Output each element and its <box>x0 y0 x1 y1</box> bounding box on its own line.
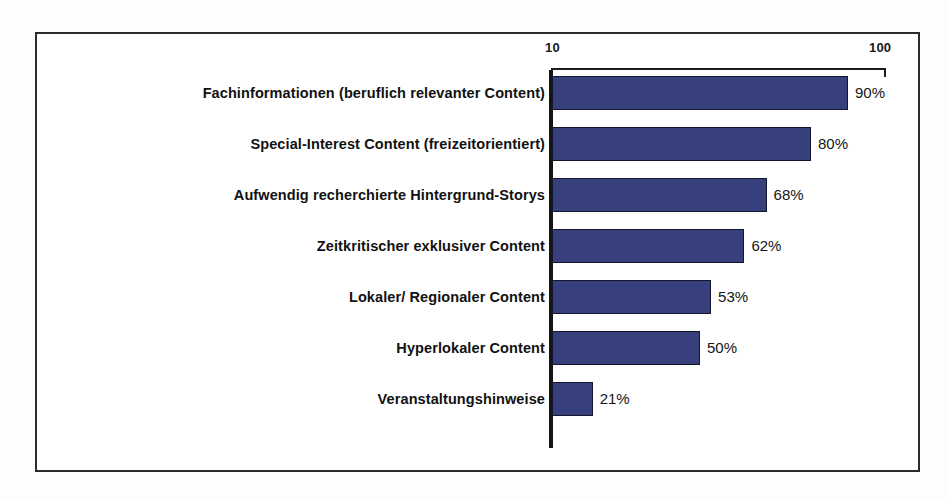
bar <box>552 382 593 416</box>
bar <box>552 229 744 263</box>
bar-value-label: 50% <box>707 331 737 365</box>
category-label: Hyperlokaler Content <box>396 331 545 365</box>
axis-tick-label-max: 100 <box>869 40 891 55</box>
bar-value-label: 62% <box>751 229 781 263</box>
bar <box>552 178 767 212</box>
category-label: Fachinformationen (beruflich relevanter … <box>203 76 545 110</box>
bar-value-label: 90% <box>855 76 885 110</box>
bar-chart: 10 100 Fachinformationen (beruflich rele… <box>0 0 949 501</box>
category-label: Zeitkritischer exklusiver Content <box>317 229 545 263</box>
bar-row: Fachinformationen (beruflich relevanter … <box>0 76 949 127</box>
category-label: Special-Interest Content (freizeitorient… <box>250 127 545 161</box>
bar-value-label: 21% <box>600 382 630 416</box>
bar-row: Hyperlokaler Content50% <box>0 331 949 382</box>
bar-row: Special-Interest Content (freizeitorient… <box>0 127 949 178</box>
axis-tick-label-min: 10 <box>545 40 560 55</box>
category-label: Lokaler/ Regionaler Content <box>349 280 545 314</box>
plot-area: 10 100 Fachinformationen (beruflich rele… <box>0 0 949 501</box>
bar-row: Aufwendig recherchierte Hintergrund-Stor… <box>0 178 949 229</box>
bar-row: Veranstaltungshinweise21% <box>0 382 949 433</box>
bar <box>552 280 711 314</box>
bar-value-label: 53% <box>718 280 748 314</box>
bar-value-label: 80% <box>818 127 848 161</box>
category-label: Aufwendig recherchierte Hintergrund-Stor… <box>234 178 545 212</box>
bar-rows: Fachinformationen (beruflich relevanter … <box>0 76 949 433</box>
bar-row: Zeitkritischer exklusiver Content62% <box>0 229 949 280</box>
category-label: Veranstaltungshinweise <box>378 382 545 416</box>
bar-row: Lokaler/ Regionaler Content53% <box>0 280 949 331</box>
top-axis-line <box>551 68 885 70</box>
bar <box>552 331 700 365</box>
bar <box>552 76 848 110</box>
bar <box>552 127 811 161</box>
bar-value-label: 68% <box>774 178 804 212</box>
